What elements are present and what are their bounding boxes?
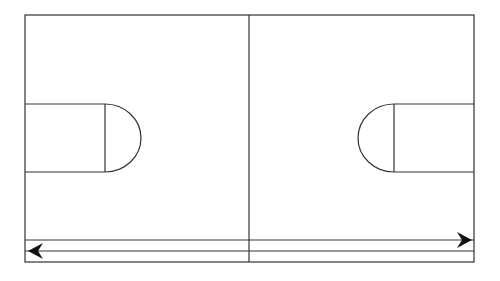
court-diagram <box>0 0 500 281</box>
left-key-arc <box>105 104 141 172</box>
right-key-arc <box>358 104 394 172</box>
